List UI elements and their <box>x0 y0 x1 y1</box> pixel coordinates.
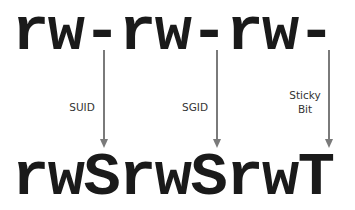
arrow-line <box>103 50 105 142</box>
label-suid: SUID <box>64 100 100 114</box>
arrow-line <box>216 50 218 142</box>
label-line: Bit <box>284 102 326 116</box>
label-line: Sticky <box>284 88 326 102</box>
permissions-after: rwSrwSrwT <box>12 147 333 209</box>
label-sgid: SGID <box>177 100 213 114</box>
label-sticky-bit: Sticky Bit <box>284 88 326 116</box>
permissions-before: rw-rw-rw- <box>12 2 333 64</box>
arrow-line <box>328 50 330 142</box>
